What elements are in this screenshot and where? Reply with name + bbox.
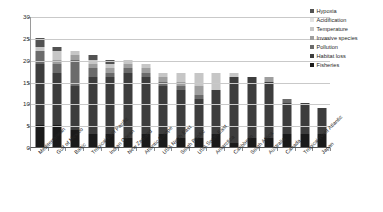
legend-item[interactable]: Temperature <box>310 24 382 33</box>
legend-label: Temperature <box>317 26 348 32</box>
legend-swatch-icon <box>310 45 314 49</box>
legend-swatch-icon <box>310 54 314 58</box>
legend-item[interactable]: Fisheries <box>310 61 382 70</box>
gridline <box>31 83 330 84</box>
legend-item[interactable]: Pollution <box>310 42 382 51</box>
legend-item[interactable]: Invasive species <box>310 33 382 42</box>
bar-segment[interactable] <box>194 86 203 95</box>
gridline <box>31 17 330 18</box>
legend-item[interactable]: Habitat loss <box>310 51 382 60</box>
bar-segment[interactable] <box>53 51 62 60</box>
legend-item[interactable]: Acidification <box>310 15 382 24</box>
bar-segment[interactable] <box>300 103 309 134</box>
legend-swatch-icon <box>310 36 314 40</box>
bar-segment[interactable] <box>247 77 256 138</box>
legend-label: Pollution <box>317 44 338 50</box>
stacked-bar-chart: 051015202530 MediterraneanGulf of Mexico… <box>0 0 383 212</box>
bar-segment[interactable] <box>194 73 203 86</box>
bar-segment[interactable] <box>53 73 62 125</box>
legend-label: Fisheries <box>317 62 340 68</box>
legend-swatch-icon <box>310 18 314 22</box>
y-axis-tick-label: 20 <box>6 58 30 64</box>
x-axis-tick-mark <box>30 148 31 151</box>
legend-label: Habitat loss <box>317 53 346 59</box>
plot-area <box>30 17 330 148</box>
legend-swatch-icon <box>310 63 314 67</box>
y-axis: 051015202530 <box>0 17 30 148</box>
gridline <box>31 126 330 127</box>
bar-segment[interactable] <box>35 64 44 125</box>
y-axis-tick-label: 5 <box>6 123 30 129</box>
gridline <box>31 104 330 105</box>
gridline <box>31 61 330 62</box>
gridline <box>31 39 330 40</box>
bar-stack[interactable] <box>88 55 97 147</box>
legend-item[interactable]: Hypoxia <box>310 6 382 15</box>
bar-segment[interactable] <box>176 73 185 82</box>
chart-legend: HypoxiaAcidificationTemperatureInvasive … <box>310 6 382 70</box>
y-axis-tick-label: 10 <box>6 101 30 107</box>
bar-segment[interactable] <box>88 68 97 77</box>
legend-label: Hypoxia <box>317 8 337 14</box>
legend-swatch-icon <box>310 27 314 31</box>
bar-segment[interactable] <box>35 51 44 64</box>
bar-stack[interactable] <box>35 38 44 147</box>
y-axis-tick-label: 25 <box>6 36 30 42</box>
legend-label: Invasive species <box>317 35 358 41</box>
legend-swatch-icon <box>310 9 314 13</box>
y-axis-tick-label: 0 <box>6 145 30 151</box>
bar-segment[interactable] <box>282 103 291 134</box>
legend-label: Acidification <box>317 17 347 23</box>
bar-segment[interactable] <box>53 64 62 73</box>
bar-segment[interactable] <box>71 86 80 130</box>
y-axis-tick-label: 30 <box>6 14 30 20</box>
y-axis-tick-label: 15 <box>6 80 30 86</box>
